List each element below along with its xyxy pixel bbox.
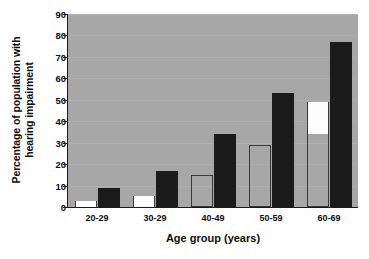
bar-dark-20-29 (98, 188, 120, 207)
y-axis-tick-mark (63, 186, 67, 187)
bar-open-white-fill (134, 196, 154, 207)
y-axis-tick-mark (63, 35, 67, 36)
bar-dark-40-49 (214, 134, 236, 207)
x-axis-tick-label: 40-49 (201, 213, 224, 223)
x-axis-title: Age group (years) (68, 232, 358, 244)
bar-open-white-fill (308, 102, 328, 134)
y-axis-title: Percentage of population with hearing im… (0, 0, 46, 220)
y-axis-tick-mark (63, 207, 67, 208)
y-axis-tick-mark (63, 121, 67, 122)
x-axis-tick-label: 20-29 (85, 213, 108, 223)
y-axis-tick-mark (63, 57, 67, 58)
gridline (68, 100, 358, 101)
x-axis-line (67, 207, 358, 208)
bar-open-white-fill (76, 201, 96, 207)
x-axis-tick-label: 60-69 (317, 213, 340, 223)
bar-dark-60-69 (330, 42, 352, 207)
bar-open-30-29 (133, 196, 155, 207)
bar-open-40-49 (191, 175, 213, 207)
gridline (68, 14, 358, 15)
y-axis-tick-mark (63, 14, 67, 15)
y-axis-title-line2: hearing impairment (23, 36, 36, 183)
y-axis-tick-mark (63, 100, 67, 101)
bar-dark-50-59 (272, 93, 294, 207)
y-axis-title-line1: Percentage of population with (10, 36, 23, 183)
gridline (68, 78, 358, 79)
y-axis-tick-labels: 0102030405060708090 (42, 0, 66, 259)
x-axis-tick-label: 50-59 (259, 213, 282, 223)
plot-area (68, 14, 358, 207)
gridline (68, 35, 358, 36)
gridline (68, 57, 358, 58)
x-axis-tick-label: 30-29 (143, 213, 166, 223)
bar-chart: Percentage of population with hearing im… (0, 0, 369, 259)
bar-open-20-29 (75, 201, 97, 207)
y-axis-tick-mark (63, 143, 67, 144)
y-axis-tick-mark (63, 78, 67, 79)
bar-open-50-59 (249, 145, 271, 207)
bar-dark-30-29 (156, 171, 178, 207)
y-axis-tick-mark (63, 164, 67, 165)
bar-open-60-69 (307, 102, 329, 207)
